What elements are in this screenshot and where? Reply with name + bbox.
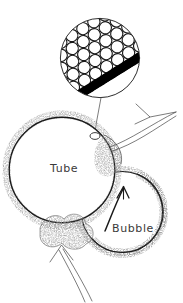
outflow-arrowhead — [135, 104, 150, 124]
inflow-arrow[interactable] — [50, 245, 92, 302]
bubble-label: Bubble — [112, 222, 154, 235]
wall-contact-nub — [90, 133, 100, 140]
figure-canvas: Tube Bubble — [0, 0, 183, 303]
tube-bubble-diagram: Tube Bubble — [0, 0, 183, 303]
tube-label: Tube — [49, 162, 78, 175]
outflow-arrow[interactable] — [110, 104, 176, 151]
